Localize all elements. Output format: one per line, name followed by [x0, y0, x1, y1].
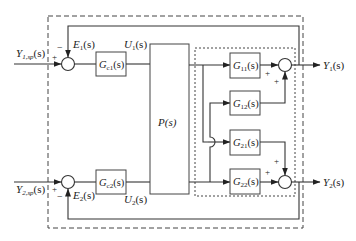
sign-plus-g12: +	[274, 76, 279, 86]
control-block-diagram: Y1,sp(s) Y2,sp(s) + − + − E1(s) E2(s) U1…	[0, 0, 356, 241]
label-p: P(s)	[157, 116, 177, 129]
sign-plus-g11: +	[265, 68, 270, 78]
g12-to-sum	[260, 72, 285, 103]
label-u1: U1(s)	[124, 38, 147, 52]
label-e2: E2(s)	[72, 189, 95, 203]
branch-to-g21-a	[203, 65, 208, 142]
label-y2: Y2(s)	[323, 176, 345, 190]
summing-junction-2	[62, 176, 75, 189]
sign-minus-1: −	[57, 42, 63, 53]
label-y2sp: Y2,sp(s)	[16, 183, 46, 197]
sign-plus-g21: +	[274, 156, 279, 166]
label-u2: U2(s)	[124, 193, 147, 207]
label-y1: Y1(s)	[323, 59, 345, 73]
sign-minus-2: −	[57, 191, 63, 202]
label-y1sp: Y1,sp(s)	[16, 47, 46, 61]
sign-plus-1: +	[52, 52, 57, 62]
summing-junction-out-1	[279, 59, 292, 72]
label-e1: E1(s)	[72, 38, 95, 52]
g21-to-sum	[260, 142, 285, 175]
summing-junction-1	[62, 58, 75, 71]
sign-plus-g22: +	[265, 167, 270, 177]
summing-junction-out-2	[279, 176, 292, 189]
